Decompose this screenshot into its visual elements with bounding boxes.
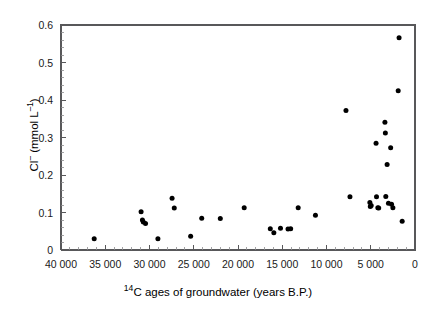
data-point: [92, 236, 97, 241]
scatter-plot: 40 00035 00030 00025 00020 00015 00010 0…: [0, 0, 436, 316]
data-point: [199, 216, 204, 221]
data-point: [170, 196, 175, 201]
data-point: [218, 216, 223, 221]
data-point: [172, 206, 177, 211]
data-point: [385, 162, 390, 167]
y-axis-title-text: Cl– (mmol L–1): [28, 98, 40, 171]
x-tick-label: 35 000: [89, 258, 121, 270]
data-point: [288, 226, 293, 231]
data-point: [374, 141, 379, 146]
y-tick-label: 0.3: [38, 132, 53, 144]
data-point: [347, 194, 352, 199]
x-tick-label: 40 000: [45, 258, 77, 270]
data-point: [390, 205, 395, 210]
y-tick-label: 0.2: [38, 169, 53, 181]
y-tick-label: 0.5: [38, 57, 53, 69]
x-axis-title-text: 14C ages of groundwater (years B.P.): [124, 286, 312, 298]
data-point: [343, 108, 348, 113]
data-point: [374, 194, 379, 199]
data-point: [188, 234, 193, 239]
y-tick-label: 0.4: [38, 94, 53, 106]
data-point: [242, 205, 247, 210]
data-point: [396, 88, 401, 93]
x-tick-label: 10 000: [310, 258, 342, 270]
data-point: [268, 226, 273, 231]
data-point: [271, 230, 276, 235]
data-point: [376, 206, 381, 211]
data-point: [382, 120, 387, 125]
data-point: [400, 219, 405, 224]
data-point: [278, 226, 283, 231]
x-tick-label: 25 000: [178, 258, 210, 270]
x-tick-label: 30 000: [133, 258, 165, 270]
data-point: [388, 145, 393, 150]
data-point: [383, 194, 388, 199]
data-point: [139, 209, 144, 214]
data-point: [383, 131, 388, 136]
data-point: [369, 203, 374, 208]
y-tick-label: 0.1: [38, 207, 53, 219]
y-tick-label: 0.6: [38, 19, 53, 31]
data-point: [143, 221, 148, 226]
data-point: [296, 205, 301, 210]
chart-figure: 40 00035 00030 00025 00020 00015 00010 0…: [0, 0, 436, 316]
data-point: [397, 35, 402, 40]
x-tick-label: 20 000: [222, 258, 254, 270]
y-axis-title: Cl– (mmol L–1): [26, 40, 40, 230]
data-point: [313, 213, 318, 218]
x-axis-title: 14C ages of groundwater (years B.P.): [0, 283, 436, 298]
y-tick-label: 0: [47, 244, 53, 256]
x-tick-label: 5 000: [358, 258, 384, 270]
plot-frame: [61, 25, 415, 250]
x-tick-label: 0: [412, 258, 418, 270]
data-series: [92, 35, 405, 241]
x-tick-label: 15 000: [266, 258, 298, 270]
data-point: [155, 236, 160, 241]
